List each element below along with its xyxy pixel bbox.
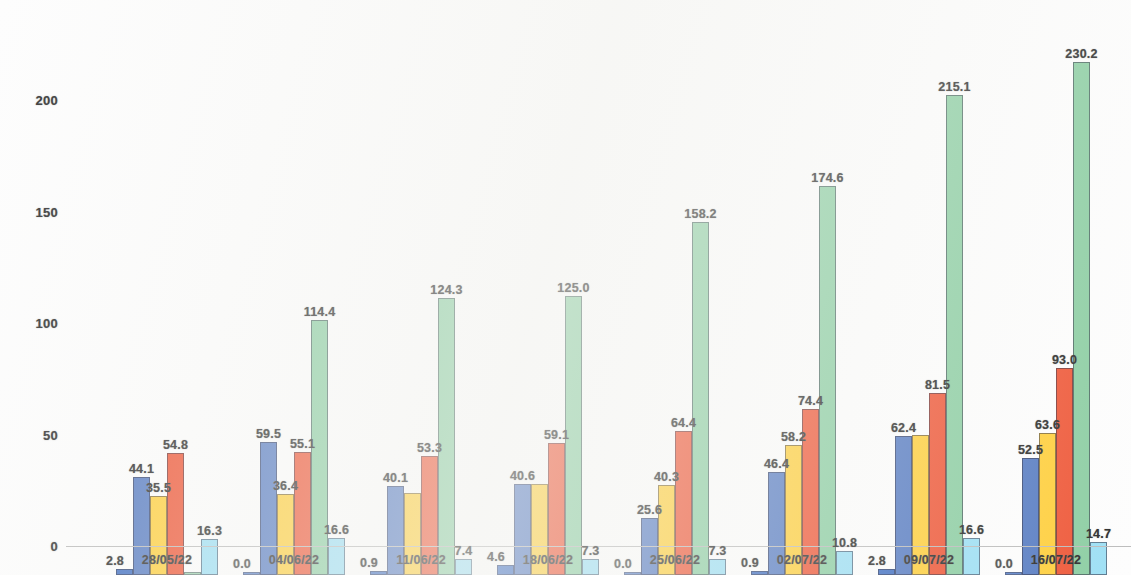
bar-chart: 050100150200 2.844.135.554.816.328/05/22… [0,0,1131,575]
bar-value-label: 125.0 [557,281,589,295]
bar-wrapper: 64.4 [675,29,692,575]
bar-wrapper: 0.0 [624,29,641,575]
y-axis-tick-label: 0 [50,539,58,554]
bar-wrapper: 7.3 [582,29,599,575]
bar-value-label: 0.9 [741,556,759,570]
bar-wrapper: 114.4 [311,29,328,575]
bar-value-label: 81.5 [925,378,950,392]
bar-wrapper: 2.8 [116,29,133,575]
bar-wrapper: 174.6 [819,29,836,575]
bar-wrapper: 215.1 [946,29,963,575]
bar-value-label: 174.6 [811,171,843,185]
bar-value-label: 54.8 [163,438,188,452]
bar-value-label: 16.3 [197,524,222,538]
bar-value-label: 74.4 [798,394,823,408]
bar-series-1[interactable]: 2.8 [116,569,133,575]
bar-wrapper: 59.1 [548,29,565,575]
plot-area: 2.844.135.554.816.328/05/220.059.536.455… [66,0,1131,575]
bar-wrapper: 124.3 [438,29,455,575]
bar-series-5[interactable]: 215.1 [946,95,963,575]
bar-value-label: 7.4 [455,544,473,558]
bar-value-label: 0.0 [614,557,632,571]
bar-wrapper: 52.5 [1022,29,1039,575]
bar-wrapper: 7.3 [709,29,726,575]
bar-value-label: 4.6 [487,550,505,564]
bar-wrapper: 2.8 [878,29,895,575]
bar-series-5[interactable]: 124.3 [438,298,455,575]
bar-value-label: 55.1 [290,437,315,451]
bar-value-label: 53.3 [417,441,442,455]
bar-series-5[interactable]: 230.2 [1073,62,1090,575]
x-axis-category-label: 16/07/22 [1031,553,1081,567]
bar-value-label: 40.3 [654,470,679,484]
bar-wrapper: 0.0 [1005,29,1022,575]
bar-value-label: 46.4 [764,457,789,471]
bar-series-1[interactable]: 2.8 [878,569,895,575]
bar-value-label: 63.6 [1035,418,1060,432]
x-axis-category-label: 09/07/22 [904,553,954,567]
bar-wrapper: 62.4 [895,29,912,575]
bar-series-1[interactable]: 0.9 [751,571,768,575]
bar-wrapper: 0.9 [751,29,768,575]
y-axis: 050100150200 [0,0,66,575]
x-axis-category-label: 25/06/22 [650,553,700,567]
bar-wrapper [184,29,201,575]
bar-group: 2.862.481.5215.116.609/07/22 [878,0,980,575]
bar-series-6[interactable]: 14.7 [1090,542,1107,575]
bar-series-6[interactable]: 16.3 [201,539,218,575]
bar-group: 0.946.458.274.4174.610.802/07/22 [751,0,853,575]
bar-wrapper [531,29,548,575]
bar-value-label: 230.2 [1065,47,1097,61]
x-axis-category-label: 28/05/22 [142,553,192,567]
bar-value-label: 25.6 [637,503,662,517]
x-axis-category-label: 18/06/22 [523,553,573,567]
bar-value-label: 40.1 [383,471,408,485]
bar-value-label: 64.4 [671,416,696,430]
bar-wrapper: 36.4 [277,29,294,575]
y-axis-tick-label: 150 [35,204,58,219]
bar-series-6[interactable]: 16.6 [963,538,980,575]
bar-wrapper: 46.4 [768,29,785,575]
bar-series-6[interactable]: 10.8 [836,551,853,575]
bar-value-label: 0.0 [233,557,251,571]
bar-wrapper [404,29,421,575]
bar-wrapper: 63.6 [1039,29,1056,575]
x-axis-category-label: 04/06/22 [269,553,319,567]
bar-wrapper: 14.7 [1090,29,1107,575]
bar-value-label: 14.7 [1086,527,1111,541]
bar-wrapper: 81.5 [929,29,946,575]
bar-wrapper: 55.1 [294,29,311,575]
bar-wrapper: 58.2 [785,29,802,575]
bar-value-label: 158.2 [684,207,716,221]
bar-wrapper: 230.2 [1073,29,1090,575]
bar-series-1[interactable]: 0.9 [370,571,387,575]
bar-group: 0.059.536.455.1114.416.604/06/22 [243,0,345,575]
y-axis-tick-label: 200 [35,93,58,108]
bar-series-6[interactable]: 7.4 [455,559,472,575]
bar-wrapper: 53.3 [421,29,438,575]
x-axis-category-label: 11/06/22 [396,553,446,567]
bar-wrapper: 125.0 [565,29,582,575]
bar-wrapper: 40.1 [387,29,404,575]
bar-group: 0.052.563.693.0230.214.716/07/22 [1005,0,1107,575]
bar-value-label: 2.8 [868,554,886,568]
bar-series-4[interactable]: 81.5 [929,393,946,575]
bar-series-1[interactable]: 4.6 [497,565,514,575]
bar-series-6[interactable]: 7.3 [582,559,599,575]
bar-series-5[interactable]: 158.2 [692,222,709,575]
bar-series-4[interactable]: 93.0 [1056,368,1073,575]
bar-wrapper: 16.6 [328,29,345,575]
bar-wrapper: 25.6 [641,29,658,575]
bar-series-6[interactable]: 7.3 [709,559,726,575]
bar-wrapper: 16.6 [963,29,980,575]
bar-value-label: 10.8 [832,536,857,550]
bar-series-6[interactable]: 16.6 [328,538,345,575]
bar-wrapper: 35.5 [150,29,167,575]
bar-wrapper: 16.3 [201,29,218,575]
bar-value-label: 93.0 [1052,353,1077,367]
bar-value-label: 52.5 [1018,443,1043,457]
bar-series-5[interactable]: 174.6 [819,186,836,575]
bar-value-label: 59.5 [256,427,281,441]
bar-wrapper: 40.3 [658,29,675,575]
bar-wrapper: 74.4 [802,29,819,575]
